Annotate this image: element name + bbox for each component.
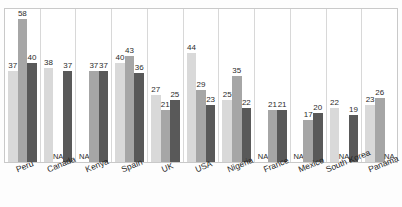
bar-slot: NA [79,9,89,162]
grouped-bar-chart: 37584038NA37NA37374043362721254429232535… [0,0,402,207]
bar-slot: 38 [44,9,54,162]
bar-value-label: 37 [89,61,98,71]
bar-value-label: 20 [313,103,322,113]
bar[interactable]: 40 [27,63,37,162]
bar[interactable]: 58 [18,19,28,162]
bar-value-label: 21 [268,100,277,110]
bar-group-kenya: NA3737 [76,9,112,162]
bar-group-peru: 375840 [5,9,41,162]
na-label: NA [79,152,89,161]
axis-label-cell: Canada [40,163,76,207]
bar[interactable]: 25 [170,100,180,162]
bar-slot: 20 [313,9,323,162]
bars: 22NA19 [327,9,362,162]
bar-group-panama: 2326NA [362,9,397,162]
bar-slot: 35 [232,9,242,162]
bar-slot: 25 [222,9,232,162]
bar-slot: NA [385,9,395,162]
bar-slot: 25 [170,9,180,162]
bar[interactable]: 37 [8,71,18,162]
bar[interactable]: 26 [375,98,385,162]
na-label: NA [293,152,303,161]
bar[interactable]: 37 [99,71,109,162]
bar-value-label: 40 [116,53,125,63]
bar-slot: 23 [206,9,216,162]
bars: 375840 [5,9,40,162]
bars: NA3737 [76,9,111,162]
bar-slot: 22 [242,9,252,162]
bar[interactable]: 40 [115,63,125,162]
bars: 2326NA [362,9,397,162]
bar-group-uk: 272125 [148,9,184,162]
bar-slot: 23 [365,9,375,162]
category-axis: PeruCanadaKenyaSpainUKUSANigeriaFranceMe… [4,163,398,207]
bar-value-label: 36 [135,63,144,73]
bar[interactable]: 25 [222,100,232,162]
bar[interactable]: 22 [242,108,252,162]
bar-value-label: 19 [349,105,358,115]
bar-slot: NA [258,9,268,162]
bar-slot: 44 [187,9,197,162]
bars: 253522 [219,9,254,162]
bar-slot: 40 [27,9,37,162]
bar-slot: 40 [115,9,125,162]
bar-value-label: 21 [161,100,170,110]
bar-group-spain: 404336 [112,9,148,162]
bar[interactable]: 27 [151,95,161,162]
bar-slot: 19 [349,9,359,162]
bars: NA2121 [255,9,290,162]
bar-slot: 26 [375,9,385,162]
bar-value-label: 22 [330,98,339,108]
bar[interactable]: 29 [196,90,206,162]
bar-slot: 37 [8,9,18,162]
bar-slot: 43 [125,9,135,162]
bar-group-canada: 38NA37 [41,9,77,162]
bar-group-nigeria: 253522 [219,9,255,162]
bar-slot: 36 [134,9,144,162]
bar-value-label: 25 [223,90,232,100]
bars: 404336 [112,9,147,162]
bar[interactable]: 38 [44,68,54,162]
bar-value-label: 35 [232,66,241,76]
bar-value-label: 37 [8,61,17,71]
bar-value-label: 22 [242,98,251,108]
bar-value-label: 25 [170,90,179,100]
bar-slot: 21 [161,9,171,162]
bar-value-label: 37 [99,61,108,71]
axis-label-cell: France [255,163,291,207]
bar-value-label: 44 [187,43,196,53]
bar[interactable]: 36 [134,73,144,162]
axis-label-cell: Panama [362,163,398,207]
axis-label-cell: Mexico [291,163,327,207]
bar-group-france: NA2121 [255,9,291,162]
bar[interactable]: 22 [330,108,340,162]
bar-group-usa: 442923 [184,9,220,162]
bar-group-mexico: NA1720 [291,9,327,162]
bars: 38NA37 [41,9,76,162]
bar-value-label: 23 [366,95,375,105]
bar-value-label: 37 [63,61,72,71]
bar-slot: 58 [18,9,28,162]
axis-label-cell: Kenya [76,163,112,207]
bar-value-label: 43 [125,46,134,56]
bar-value-label: 38 [44,58,53,68]
bar[interactable]: 43 [125,56,135,162]
bar[interactable]: 37 [63,71,73,162]
bars: 272125 [148,9,183,162]
bar[interactable]: 37 [89,71,99,162]
bar[interactable]: 23 [206,105,216,162]
bar-slot: NA [339,9,349,162]
bar[interactable]: 21 [268,110,278,162]
bar[interactable]: 35 [232,76,242,162]
bar-value-label: 23 [206,95,215,105]
bars: NA1720 [291,9,326,162]
bar[interactable]: 17 [303,120,313,162]
bar-value-label: 27 [151,85,160,95]
axis-label-cell: Nigeria [219,163,255,207]
bar[interactable]: 44 [187,53,197,162]
bar[interactable]: 21 [161,110,171,162]
na-label: NA [258,152,268,161]
axis-label-cell: UK [147,163,183,207]
axis-label-cell: Spain [111,163,147,207]
bar-value-label: 40 [27,53,36,63]
